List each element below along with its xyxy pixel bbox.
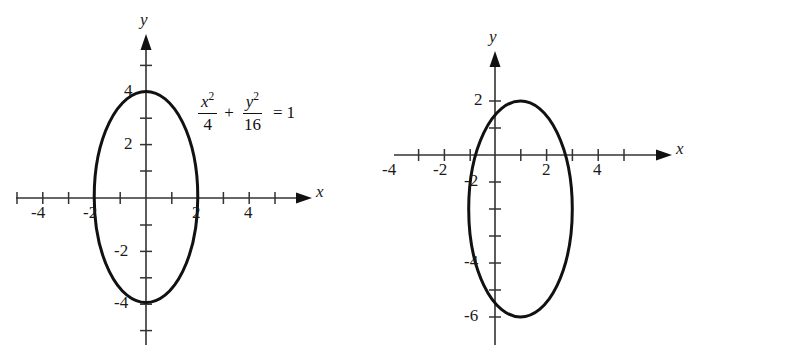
- x-tick-label-4: 4: [244, 203, 253, 223]
- x-tick-label-neg2: -2: [433, 160, 447, 180]
- y-tick-label-2: 2: [124, 134, 133, 154]
- plus-operator: +: [224, 103, 234, 123]
- numerator-x-squared: x2: [198, 92, 217, 114]
- y-axis-label: y: [489, 27, 497, 47]
- numerator-y-squared: y2: [243, 92, 262, 114]
- y-axis-arrowhead: [490, 51, 501, 67]
- y-tick-label-neg2: -2: [464, 171, 478, 191]
- y-tick-label-2: 2: [474, 90, 483, 110]
- plot-canvas-left: [0, 0, 394, 351]
- x-tick-label-4: 4: [593, 160, 602, 180]
- variable-x: x: [201, 92, 209, 111]
- y-tick-label-neg6: -6: [464, 306, 478, 326]
- y-tick-label-neg4: -4: [464, 252, 478, 272]
- exponent-2: 2: [253, 90, 259, 103]
- x-tick-label-2: 2: [542, 160, 551, 180]
- x-axis-arrowhead: [656, 150, 672, 161]
- figure-ellipse-origin: x y -4 -2 2 4 4 2 -2 -4 x2 4 + y2 16 = 1: [0, 0, 394, 351]
- y-axis-label: y: [140, 10, 148, 30]
- y-tick-label-4: 4: [124, 81, 133, 101]
- ellipse-curve: [469, 101, 573, 317]
- x-tick-label-neg4: -4: [31, 203, 45, 223]
- right-hand-side-1: 1: [287, 103, 296, 123]
- figure-ellipse-translated: x y -4 -2 2 4 2 -2 -4 -6 (x−1)2 4 + (y+2…: [394, 0, 788, 351]
- equals-sign: =: [273, 103, 283, 123]
- x-axis-label: x: [676, 139, 684, 159]
- fraction-x-squared-over-4: x2 4: [198, 92, 217, 134]
- fraction-y-squared-over-16: y2 16: [241, 92, 264, 134]
- y-axis-arrowhead: [141, 34, 152, 50]
- equation-left: x2 4 + y2 16 = 1: [196, 92, 295, 134]
- x-axis-label: x: [316, 182, 324, 202]
- x-tick-label-neg2: -2: [83, 203, 97, 223]
- exponent-2: 2: [209, 90, 215, 103]
- denominator-4: 4: [200, 114, 215, 135]
- denominator-16: 16: [241, 114, 264, 135]
- y-tick-label-neg4: -4: [114, 293, 128, 313]
- plot-canvas-right: [394, 0, 788, 351]
- y-tick-label-neg2: -2: [114, 241, 128, 261]
- x-tick-label-2: 2: [192, 203, 201, 223]
- x-axis-arrowhead: [296, 193, 312, 204]
- x-tick-label-neg4: -4: [382, 160, 396, 180]
